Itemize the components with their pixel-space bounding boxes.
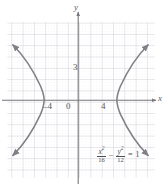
- minus-operator: –: [109, 151, 113, 159]
- y-axis-label: y: [74, 3, 78, 12]
- x-axis-label: x: [158, 94, 162, 103]
- origin-label: 0: [66, 102, 71, 111]
- x-term-fraction: x2 16: [97, 146, 106, 164]
- x-tick-positive-four: 4: [101, 102, 106, 111]
- equals-sign: =: [128, 151, 133, 159]
- plot-canvas: [0, 0, 167, 189]
- x-term-numerator: x2: [97, 146, 105, 155]
- equation-right-side: 1: [136, 151, 140, 159]
- y-exponent: 2: [121, 145, 124, 151]
- x-term-denominator: 16: [97, 157, 106, 164]
- y-tick-three: 3: [73, 63, 78, 72]
- y-term-denominator: 12: [116, 157, 125, 164]
- x-tick-negative-four: –4: [43, 102, 52, 111]
- x-exponent: 2: [102, 145, 105, 151]
- y-term-fraction: y2 12: [116, 146, 125, 164]
- hyperbola-equation: x2 16 – y2 12 = 1: [96, 146, 140, 164]
- y-term-numerator: y2: [116, 146, 124, 155]
- hyperbola-figure: y x –4 0 4 3 x2 16 – y2 12 = 1: [0, 0, 167, 189]
